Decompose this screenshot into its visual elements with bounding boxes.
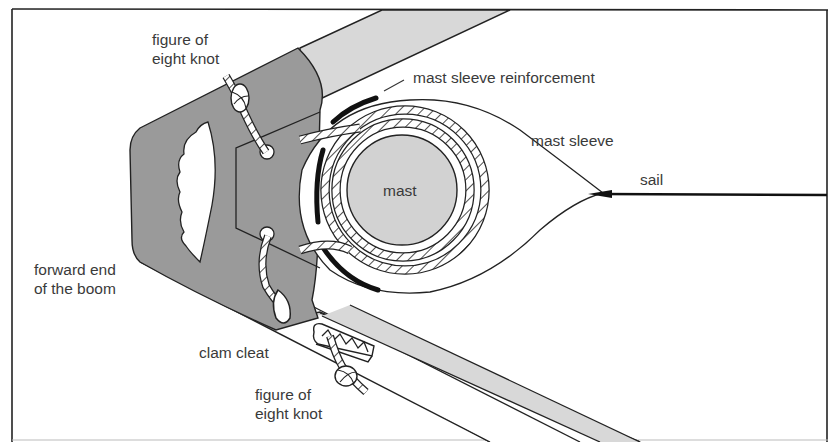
reinforcement-leader [384, 80, 404, 91]
boom-upper-band [300, 10, 510, 104]
label-figure-eight-knot-top: figure of eight knot [152, 30, 219, 68]
label-mast-sleeve: mast sleeve [531, 131, 614, 150]
boom-mast-diagram [0, 0, 832, 442]
boom-collar [130, 48, 322, 330]
sail-line [600, 194, 827, 195]
label-mast-sleeve-reinforcement: mast sleeve reinforcement [413, 68, 595, 87]
label-figure-eight-knot-bottom: figure of eight knot [255, 385, 322, 423]
label-clam-cleat: clam cleat [199, 343, 269, 362]
label-forward-end-of-boom: forward end of the boom [34, 260, 116, 298]
label-mast: mast [383, 181, 417, 200]
label-sail: sail [640, 170, 663, 189]
